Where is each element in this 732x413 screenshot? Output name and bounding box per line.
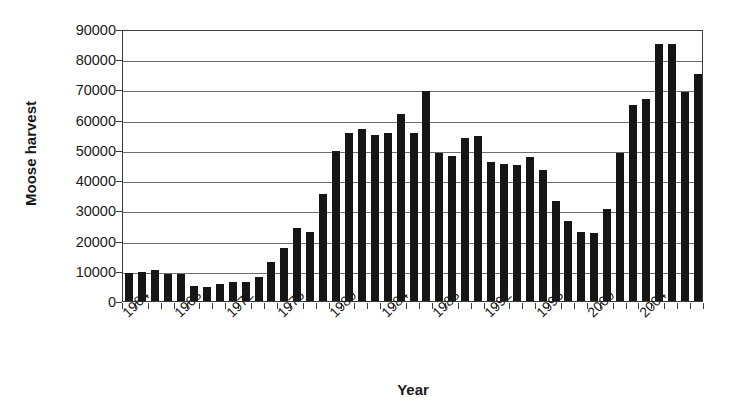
x-axis-tick-mark xyxy=(677,303,678,309)
x-axis-tick-mark xyxy=(458,303,459,309)
x-axis-tick-mark xyxy=(367,303,368,309)
bar xyxy=(422,91,430,301)
y-axis-title: Moose harvest xyxy=(22,44,39,264)
bar xyxy=(216,284,224,301)
bar xyxy=(590,233,598,301)
bar xyxy=(461,138,469,301)
bar xyxy=(151,270,159,301)
bar xyxy=(358,129,366,301)
bar xyxy=(616,153,624,301)
x-axis-tick-mark xyxy=(690,303,691,309)
y-axis-tick-label: 90000 xyxy=(76,22,116,38)
bar xyxy=(435,153,443,301)
y-axis-tick-label: 10000 xyxy=(76,264,116,280)
bar xyxy=(681,92,689,301)
bar xyxy=(345,133,353,301)
bar xyxy=(487,162,495,301)
bar xyxy=(629,105,637,301)
bar xyxy=(577,232,585,302)
x-axis-tick-mark xyxy=(561,303,562,309)
bar xyxy=(564,221,572,301)
bar xyxy=(668,44,676,301)
bar xyxy=(448,156,456,301)
x-axis-tick-mark xyxy=(664,303,665,309)
bar xyxy=(397,114,405,301)
y-axis-tick-label: 80000 xyxy=(76,52,116,68)
bar xyxy=(539,170,547,301)
x-axis-tick-mark xyxy=(212,303,213,309)
x-axis-tick-mark xyxy=(303,303,304,309)
y-axis-tick-label: 30000 xyxy=(76,203,116,219)
bar xyxy=(410,133,418,301)
x-axis-tick-mark xyxy=(703,303,704,309)
bar xyxy=(280,248,288,301)
y-axis-tick-label: 50000 xyxy=(76,143,116,159)
bar xyxy=(655,44,663,301)
bar xyxy=(513,165,521,301)
bar xyxy=(203,287,211,301)
y-axis-tick-label: 60000 xyxy=(76,113,116,129)
x-axis-tick-mark xyxy=(406,303,407,309)
x-axis-tick-mark xyxy=(199,303,200,309)
x-axis-tick-mark xyxy=(509,303,510,309)
bar xyxy=(306,232,314,302)
x-axis-tick-mark xyxy=(148,303,149,309)
bar xyxy=(267,262,275,301)
bar xyxy=(164,274,172,301)
plot-area xyxy=(122,30,703,302)
x-axis-tick-mark xyxy=(316,303,317,309)
x-axis-tick-mark xyxy=(354,303,355,309)
y-axis-tick-label: 20000 xyxy=(76,234,116,250)
bar xyxy=(319,194,327,301)
y-axis-tick-label: 70000 xyxy=(76,82,116,98)
bar xyxy=(552,201,560,301)
y-axis-tick-label: 40000 xyxy=(76,173,116,189)
x-axis-tick-mark xyxy=(522,303,523,309)
bar xyxy=(332,151,340,301)
bar xyxy=(500,164,508,302)
bar xyxy=(526,157,534,301)
bar xyxy=(474,136,482,301)
bar xyxy=(384,133,392,301)
bar xyxy=(694,74,702,301)
x-axis-tick-mark xyxy=(161,303,162,309)
x-axis-tick-mark xyxy=(574,303,575,309)
x-axis-tick-mark xyxy=(264,303,265,309)
moose-harvest-bar-chart: Moose harvest 01000020000300004000050000… xyxy=(0,0,732,413)
x-axis-tick-mark xyxy=(251,303,252,309)
bar xyxy=(642,99,650,301)
x-axis-tick-mark xyxy=(419,303,420,309)
bar-series xyxy=(123,31,702,301)
bar xyxy=(371,135,379,301)
x-axis-title: Year xyxy=(122,381,704,398)
y-axis-tick-label: 0 xyxy=(108,294,116,310)
x-axis-tick-mark xyxy=(626,303,627,309)
x-axis-tick-mark xyxy=(613,303,614,309)
x-axis-tick-mark xyxy=(471,303,472,309)
